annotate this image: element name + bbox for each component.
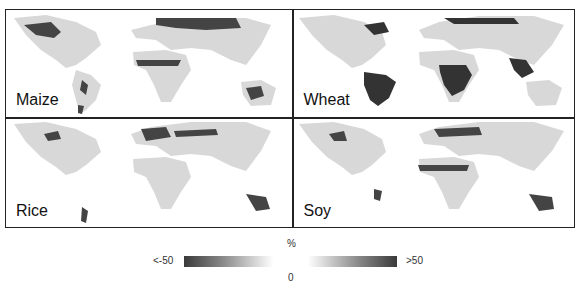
colorbar-max-label: >50	[406, 255, 423, 266]
panel-rice: Rice	[6, 119, 291, 227]
panel-label-wheat: Wheat	[304, 91, 350, 109]
panel-soy: Soy	[294, 119, 574, 227]
colorbar-gradient	[184, 256, 397, 267]
world-map-soy	[294, 119, 574, 227]
map-grid: Maize Wheat	[5, 9, 575, 228]
horizontal-divider	[6, 117, 574, 119]
colorbar-center-label: 0	[288, 272, 294, 283]
colorbar-unit-label: %	[287, 238, 296, 249]
panel-label-rice: Rice	[16, 202, 48, 220]
panel-label-soy: Soy	[304, 202, 332, 220]
vertical-divider	[292, 10, 294, 227]
panel-wheat: Wheat	[294, 10, 574, 116]
world-map-rice	[6, 119, 291, 227]
colorbar-min-label: <-50	[153, 255, 173, 266]
colorbar-legend: % <-50 >50 0	[0, 232, 580, 289]
panel-label-maize: Maize	[16, 91, 59, 109]
panel-maize: Maize	[6, 10, 291, 116]
